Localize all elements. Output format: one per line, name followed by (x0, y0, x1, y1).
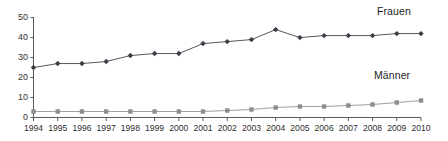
y-axis-tick-label: 40 (2, 33, 28, 42)
data-point (128, 109, 132, 113)
x-axis-tick-label: 2010 (406, 124, 436, 133)
data-point (418, 31, 423, 36)
y-axis-tick-label: 10 (2, 93, 28, 102)
data-point (370, 102, 374, 106)
data-point (273, 27, 278, 32)
data-point (31, 65, 36, 70)
data-point (370, 33, 375, 38)
data-point (56, 109, 60, 113)
data-point (152, 51, 157, 56)
data-point (104, 109, 108, 113)
y-axis-tick-label: 50 (2, 13, 28, 22)
data-point (322, 104, 326, 108)
data-point (346, 103, 350, 107)
data-point (225, 108, 229, 112)
data-point (297, 35, 302, 40)
data-point (273, 105, 277, 109)
data-point (177, 109, 181, 113)
data-point (225, 39, 230, 44)
data-point (346, 33, 351, 38)
series-line-frauen (34, 30, 422, 68)
data-point (395, 100, 399, 104)
y-axis-tick-label: 20 (2, 73, 28, 82)
data-point (55, 61, 60, 66)
data-point (152, 109, 156, 113)
data-point (249, 37, 254, 42)
series-markers (31, 27, 424, 114)
data-point (80, 109, 84, 113)
y-axis-tick-label: 0 (2, 113, 28, 122)
data-point (31, 109, 35, 113)
y-axis-tick-label: 30 (2, 53, 28, 62)
line-chart: 01020304050 1994199519961997199819992000… (0, 0, 448, 141)
series-label-frauen: Frauen (377, 5, 411, 17)
data-point (176, 51, 181, 56)
data-point (394, 31, 399, 36)
x-axis-ticks (34, 118, 422, 122)
series-label-maenner: Männer (374, 69, 410, 81)
data-point (128, 53, 133, 58)
data-point (419, 98, 423, 102)
data-point (321, 33, 326, 38)
data-point (201, 109, 205, 113)
data-point (103, 59, 108, 64)
data-point (79, 61, 84, 66)
data-point (298, 104, 302, 108)
data-point (249, 107, 253, 111)
data-point (200, 41, 205, 46)
